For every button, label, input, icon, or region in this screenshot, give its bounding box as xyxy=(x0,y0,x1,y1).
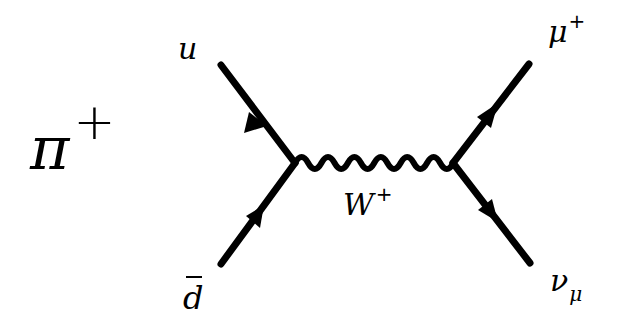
u-quark-line xyxy=(221,65,295,163)
mu-symbol: μ xyxy=(548,14,568,49)
pion-symbol: π xyxy=(30,113,69,183)
w-symbol: W xyxy=(343,187,374,222)
u-quark-label: u xyxy=(178,34,197,64)
w-charge: + xyxy=(376,182,393,206)
pion-charge: + xyxy=(73,93,115,151)
antiparticle-bar xyxy=(186,276,202,278)
mu-charge: + xyxy=(569,9,586,33)
nu-subscript: μ xyxy=(569,282,582,306)
muon-neutrino-label: νμ xyxy=(550,266,581,296)
anti-d-quark-label: d xyxy=(183,282,203,314)
anti-muon-line xyxy=(453,64,529,163)
w-boson-propagator xyxy=(295,157,453,169)
pion-label: π+ xyxy=(30,118,111,178)
muon-neutrino-line xyxy=(453,163,530,263)
w-boson-label: W+ xyxy=(343,190,391,220)
anti-d-quark-line xyxy=(221,163,295,264)
anti-muon-label: μ+ xyxy=(548,17,584,47)
nu-symbol: ν xyxy=(550,263,568,298)
